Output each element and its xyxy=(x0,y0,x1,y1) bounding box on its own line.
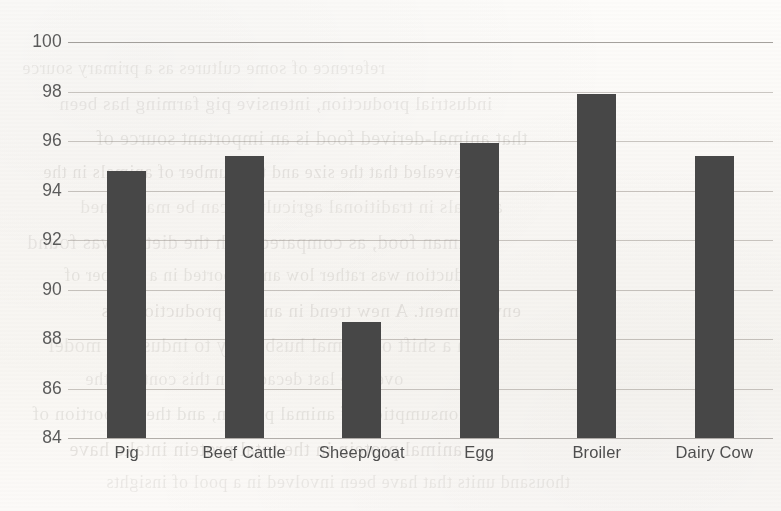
bar-egg xyxy=(460,143,499,438)
x-tick-label-pig: Pig xyxy=(115,443,139,462)
y-tick-label-88: 88 xyxy=(16,330,62,348)
y-tick-label-84: 84 xyxy=(16,429,62,447)
gridline-86 xyxy=(68,389,773,390)
gridline-88 xyxy=(68,339,773,340)
x-tick-label-sheep-goat: Sheep/goat xyxy=(319,443,405,462)
y-axis-tick-labels: 8486889092949698100 xyxy=(12,42,62,438)
bar-broiler xyxy=(577,94,616,438)
gridline-98 xyxy=(68,92,773,93)
gridline-84 xyxy=(68,438,773,439)
y-tick-label-92: 92 xyxy=(16,231,62,249)
x-axis-category-labels: PigBeef CattleSheep/goatEggBroilerDairy … xyxy=(68,443,773,477)
gridline-94 xyxy=(68,191,773,192)
y-tick-label-100: 100 xyxy=(16,33,62,51)
bar-dairy-cow xyxy=(695,156,734,438)
x-tick-label-beef-cattle: Beef Cattle xyxy=(203,443,286,462)
gridline-100 xyxy=(68,42,773,43)
bar-chart: 8486889092949698100 PigBeef CattleSheep/… xyxy=(0,0,781,511)
y-tick-label-96: 96 xyxy=(16,132,62,150)
gridline-92 xyxy=(68,240,773,241)
gridline-96 xyxy=(68,141,773,142)
y-tick-label-86: 86 xyxy=(16,380,62,398)
x-tick-label-broiler: Broiler xyxy=(572,443,621,462)
bar-pig xyxy=(107,171,146,438)
plot-area xyxy=(68,42,773,438)
y-tick-label-90: 90 xyxy=(16,281,62,299)
bar-beef-cattle xyxy=(225,156,264,438)
y-tick-label-94: 94 xyxy=(16,182,62,200)
x-tick-label-egg: Egg xyxy=(464,443,494,462)
x-tick-label-dairy-cow: Dairy Cow xyxy=(676,443,753,462)
gridline-90 xyxy=(68,290,773,291)
y-tick-label-98: 98 xyxy=(16,83,62,101)
bar-sheep-goat xyxy=(342,322,381,438)
